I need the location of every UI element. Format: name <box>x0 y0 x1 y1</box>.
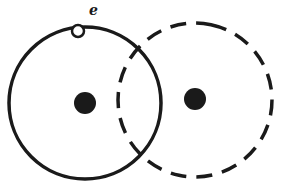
nucleus-right <box>184 88 206 110</box>
electron-icon <box>72 25 84 37</box>
nucleus-left <box>74 92 96 114</box>
two-atom-orbit-diagram <box>0 0 282 192</box>
electron-label: e <box>89 2 98 18</box>
